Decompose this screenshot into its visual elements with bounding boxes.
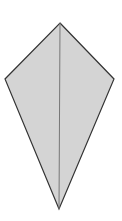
kite-diagram (0, 0, 122, 221)
